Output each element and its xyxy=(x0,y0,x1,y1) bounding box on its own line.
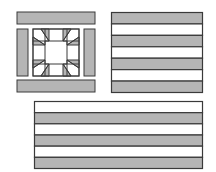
stripe-white xyxy=(35,102,203,113)
right-border-bar xyxy=(84,29,95,76)
stripe-gray xyxy=(35,113,203,124)
stripe-white xyxy=(112,24,203,35)
stripe-white xyxy=(35,124,203,135)
stripe-gray xyxy=(112,13,203,24)
stripe-gray xyxy=(35,135,203,146)
stripe-panel-square xyxy=(112,13,203,93)
star-block-frame xyxy=(33,29,79,76)
stripe-panel-wide xyxy=(35,102,203,169)
star-block xyxy=(33,29,79,76)
stripe-white xyxy=(112,47,203,58)
top-border-bar xyxy=(17,12,95,24)
quilt-diagram xyxy=(0,0,216,172)
stripe-gray xyxy=(112,58,203,69)
bottom-border-bar xyxy=(17,80,95,92)
stripe-gray xyxy=(35,157,203,168)
star-block-panel xyxy=(17,12,95,92)
stripe-gray xyxy=(112,35,203,46)
stripe-white xyxy=(35,146,203,157)
stripe-gray xyxy=(112,81,203,92)
left-border-bar xyxy=(17,29,28,76)
stripe-white xyxy=(112,70,203,81)
